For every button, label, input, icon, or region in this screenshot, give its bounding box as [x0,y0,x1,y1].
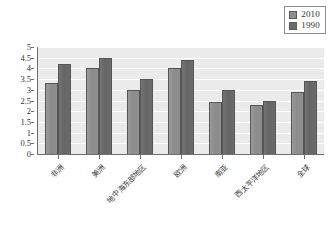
y-axis-tick-label: 1.5 [20,117,31,127]
bar-group [120,47,161,154]
x-axis-tickmark [99,155,100,159]
bar-2010[interactable] [127,90,140,154]
x-axis-tickmark [181,155,182,159]
bar-1990[interactable] [222,90,235,154]
x-axis-tick-label: 非洲 [47,161,65,179]
y-axis-tickmark [31,90,34,91]
y-axis-tick-label: 1 [27,128,31,138]
y-axis-tickmark [31,68,34,69]
x-axis-slot: 美洲 [78,155,119,167]
y-axis-tick-label: 3 [27,85,31,95]
bar-2010[interactable] [291,92,304,154]
bar-group [79,47,120,154]
bar-2010[interactable] [168,68,181,154]
x-axis-tick-label: 地中海东部地区 [103,161,147,205]
x-axis-tickmark [140,155,141,159]
bar-1990[interactable] [263,101,276,155]
y-axis-tick-label: 4.5 [20,53,31,63]
y-axis-tick-label: 0.5 [20,138,31,148]
y-axis-tick-label: 3.5 [20,74,31,84]
bar-group [242,47,283,154]
plot-wrapper: 54.543.532.521.510.50 非洲美洲地中海东部地区欧洲南亚西太平… [12,47,324,167]
y-axis-tickmark [31,122,34,123]
bar-2010[interactable] [86,68,99,154]
x-axis-tick-label: 南亚 [211,161,229,179]
x-axis-tickmark [304,155,305,159]
bar-1990[interactable] [140,79,153,154]
legend-item-1990: 1990 [289,21,320,30]
x-axis-slot: 地中海东部地区 [119,155,160,167]
x-axis-slot: 欧洲 [160,155,201,167]
y-axis-tick-label: 0 [27,149,31,159]
x-axis-slot: 全球 [283,155,324,167]
bar-1990[interactable] [304,81,317,154]
y-axis-tickmark [31,47,34,48]
y-axis-tick-label: 2.5 [20,96,31,106]
plot-area [37,47,324,155]
x-axis-tick-label: 全球 [293,161,311,179]
bar-group [201,47,242,154]
y-axis-tickmark [31,154,34,155]
x-axis: 非洲美洲地中海东部地区欧洲南亚西太平洋地区全球 [37,155,324,167]
x-axis-slot: 西太平洋地区 [242,155,283,167]
bar-chart: 2010 1990 54.543.532.521.510.50 非洲美洲地中海东… [0,0,333,238]
x-axis-tickmark [58,155,59,159]
bar-1990[interactable] [181,60,194,154]
x-axis-tickmark [222,155,223,159]
bar-group [161,47,202,154]
bar-group [38,47,79,154]
bar-1990[interactable] [58,64,71,154]
bar-1990[interactable] [99,58,112,154]
y-axis-tickmark [31,143,34,144]
x-axis-slot: 非洲 [37,155,78,167]
legend-label-2010: 2010 [301,10,320,19]
legend-item-2010: 2010 [289,10,320,19]
legend-label-1990: 1990 [301,21,320,30]
bars-layer [38,47,324,154]
y-axis-tick-label: 5 [27,42,31,52]
x-axis-slot: 南亚 [201,155,242,167]
bar-2010[interactable] [250,105,263,154]
y-axis: 54.543.532.521.510.50 [12,47,34,154]
bar-2010[interactable] [209,102,222,154]
legend-swatch-1990-icon [289,22,297,30]
y-axis-tickmark [31,58,34,59]
x-axis-tickmark [263,155,264,159]
bar-group [283,47,324,154]
y-axis-tick-label: 2 [27,106,31,116]
y-axis-tickmark [31,101,34,102]
x-axis-tick-label: 欧洲 [170,161,188,179]
legend-swatch-2010-icon [289,11,297,19]
y-axis-tick-label: 4 [27,63,31,73]
y-axis-tickmark [31,111,34,112]
x-axis-tick-label: 美洲 [88,161,106,179]
y-axis-tickmark [31,79,34,80]
chart-legend: 2010 1990 [284,6,326,34]
bar-2010[interactable] [45,83,58,154]
y-axis-tickmark [31,133,34,134]
